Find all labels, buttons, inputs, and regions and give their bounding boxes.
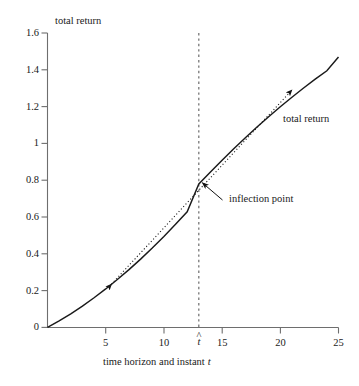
total-return-curve bbox=[48, 57, 339, 327]
y-tick-label-1.4: 1.4 bbox=[6, 65, 39, 76]
y-tick-label-1: 1 bbox=[6, 138, 39, 149]
x-tick-label-20: 20 bbox=[265, 338, 295, 349]
y-axis-ticks bbox=[42, 33, 48, 327]
total-return-curve-label: total return bbox=[283, 114, 329, 125]
t-hat-accent: ^ bbox=[197, 331, 202, 342]
x-tick-label-t-hat: ^ t bbox=[189, 337, 209, 348]
x-tick-label-25: 25 bbox=[324, 338, 354, 349]
x-tick-label-15: 15 bbox=[207, 338, 237, 349]
inflection-point-label: inflection point bbox=[229, 194, 293, 205]
x-axis-ticks bbox=[106, 328, 339, 334]
y-tick-label-0: 0 bbox=[6, 322, 39, 333]
x-tick-label-10: 10 bbox=[149, 338, 179, 349]
x-axis-title-text: time horizon and instant bbox=[103, 356, 205, 367]
y-tick-label-1.6: 1.6 bbox=[6, 28, 39, 39]
y-tick-label-0.4: 0.4 bbox=[6, 249, 39, 260]
y-tick-label-1.2: 1.2 bbox=[6, 102, 39, 113]
inflection-point-annotation-arrow bbox=[202, 183, 222, 200]
x-axis-title-symbol: t bbox=[208, 356, 211, 367]
y-tick-label-0.8: 0.8 bbox=[6, 175, 39, 186]
y-tick-label-0.2: 0.2 bbox=[6, 286, 39, 297]
y-axis-title: total return bbox=[55, 16, 101, 27]
x-tick-label-5: 5 bbox=[91, 338, 121, 349]
chart-canvas bbox=[0, 0, 359, 386]
chart-figure: total return 1.6 1.4 1.2 1 0.8 0.6 0.4 0… bbox=[0, 0, 359, 386]
x-axis-title: time horizon and instantt bbox=[103, 357, 211, 368]
y-tick-label-0.6: 0.6 bbox=[6, 212, 39, 223]
